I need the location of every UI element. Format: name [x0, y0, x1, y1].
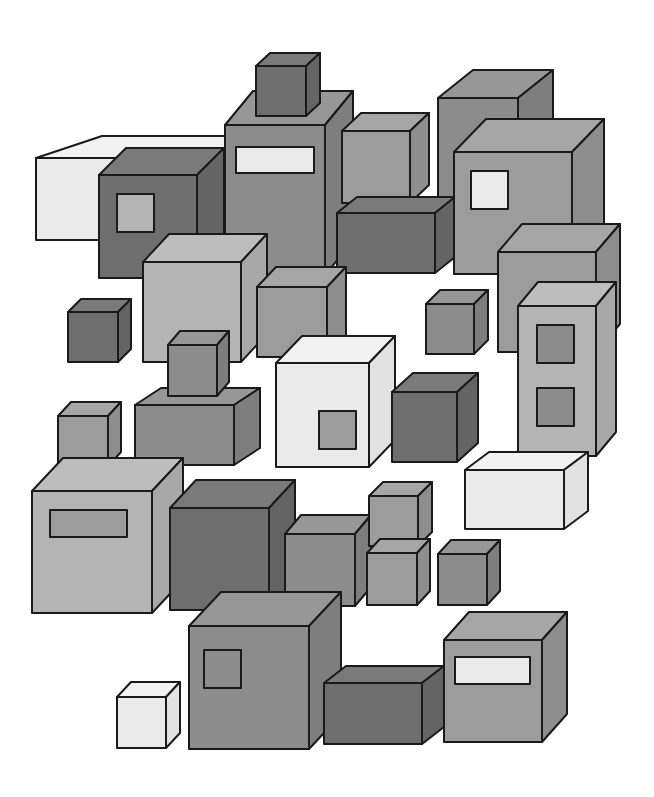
box-large-left-window [32, 458, 183, 613]
box-small-left-mid [58, 402, 121, 466]
box-small-bottom-stack [367, 539, 430, 605]
box-front-face [256, 66, 306, 116]
box-tall-twin-windows [518, 282, 616, 456]
box-white-flat-right [465, 452, 588, 529]
box-small-top-stack [369, 482, 432, 546]
box-front-face [392, 392, 457, 462]
box-small-white-bottom [117, 682, 180, 748]
box-dark-right-center [392, 373, 478, 462]
box-wide-flat-left [135, 388, 260, 465]
box-window [236, 147, 314, 173]
box-small-right-row [438, 540, 500, 605]
box-window [204, 650, 241, 688]
box-front-face [68, 312, 118, 362]
box-large-bottom-window [189, 592, 341, 749]
box-front-face [135, 405, 234, 465]
boxes-illustration [0, 0, 654, 797]
box-large-dark [170, 480, 295, 610]
box-tower-top-cube [256, 53, 320, 116]
box-front-face [337, 213, 435, 273]
box-front-face [444, 640, 542, 742]
box-window [50, 510, 127, 537]
box-window [471, 171, 508, 209]
box-stacked-small-top [168, 331, 229, 396]
box-window [455, 657, 530, 684]
box-front-face [117, 697, 166, 748]
box-window [117, 194, 154, 232]
box-small-upper-mid [342, 113, 429, 203]
box-bottom-right-window [444, 612, 567, 742]
box-front-face [465, 470, 564, 529]
box-side-face [596, 282, 616, 456]
box-dark-flat-mid [337, 197, 455, 273]
box-front-face [426, 304, 474, 354]
box-front-face [342, 131, 410, 203]
box-window [537, 388, 574, 426]
box-window [319, 411, 356, 449]
box-white-center [276, 336, 395, 467]
box-front-face [324, 683, 422, 744]
box-window [537, 325, 574, 363]
box-dark-flat-bottom [324, 666, 444, 744]
box-front-face [438, 554, 487, 605]
box-front-face [367, 553, 417, 605]
box-front-face [168, 345, 217, 396]
box-small-dark-left [68, 299, 131, 362]
box-small-right-mid [426, 290, 488, 354]
